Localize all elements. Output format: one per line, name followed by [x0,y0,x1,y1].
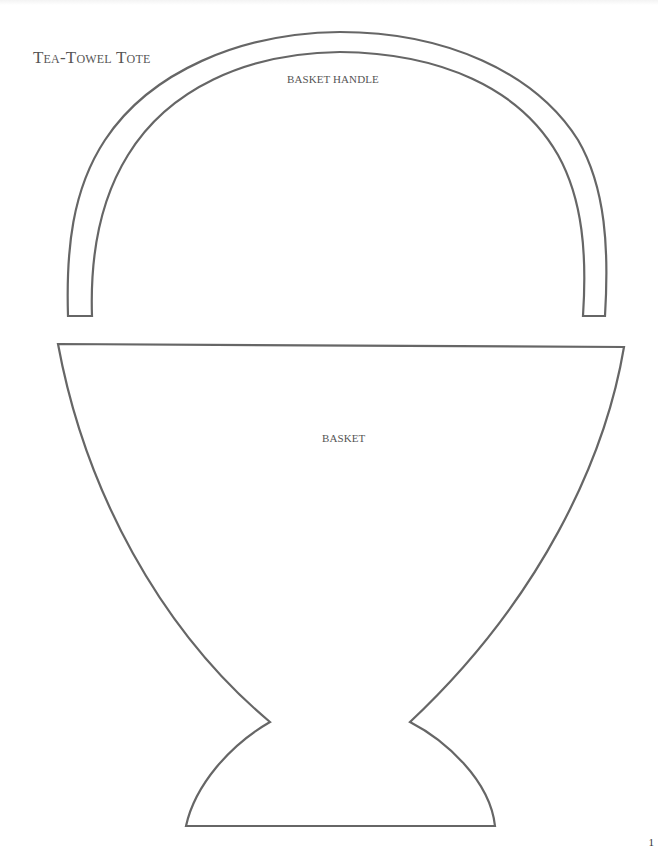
basket-shape [58,344,624,826]
page-number: 1 [649,836,655,848]
pattern-drawing [0,0,658,850]
basket-handle-label: BASKET HANDLE [287,73,379,85]
basket-label: BASKET [322,432,365,444]
pattern-page: Tea-Towel Tote BASKET HANDLE BASKET 1 [0,0,658,850]
basket-outline [58,344,624,826]
